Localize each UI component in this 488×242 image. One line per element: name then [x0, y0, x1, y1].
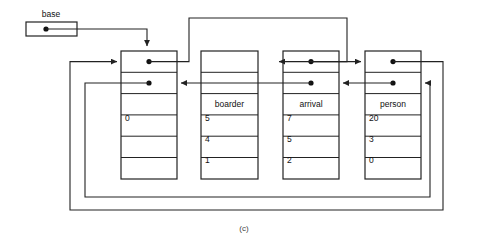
node-arrival: arrival 7 5 2 [283, 51, 339, 179]
cell-value: 5 [205, 113, 210, 123]
base-label: base [42, 9, 61, 19]
figure-canvas: base 0 boarder 5 4 1 arr [0, 0, 488, 242]
cell-value: 2 [287, 155, 292, 165]
node-name-label: boarder [215, 99, 244, 109]
node-boarder: boarder 5 4 1 [201, 51, 258, 179]
figure-caption: (c) [239, 224, 249, 233]
node-head: 0 [121, 51, 177, 179]
node-person: person 20 3 0 [365, 51, 421, 179]
cell-value: 5 [287, 134, 292, 144]
cell-value: 20 [369, 113, 379, 123]
node-name-label: arrival [299, 99, 322, 109]
cell-value: 3 [369, 134, 374, 144]
cell-value: 1 [205, 155, 210, 165]
node-name-label: person [380, 99, 406, 109]
cell-value: 4 [205, 134, 210, 144]
cell-value: 0 [125, 113, 130, 123]
cell-value: 0 [369, 155, 374, 165]
linked-list-diagram: base 0 boarder 5 4 1 arr [0, 0, 488, 242]
cell-value: 7 [287, 113, 292, 123]
